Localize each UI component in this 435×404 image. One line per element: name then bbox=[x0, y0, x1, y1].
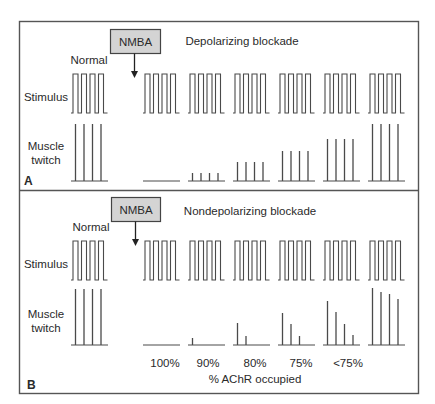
panel-a: NMBA Depolarizing blockade Normal Stimul… bbox=[24, 30, 405, 189]
occupancy-label: 80% bbox=[243, 357, 266, 369]
stimulus-train bbox=[71, 74, 108, 113]
panel-letter-b: B bbox=[27, 378, 36, 392]
stimulus-train bbox=[143, 74, 180, 113]
occupancy-label: 90% bbox=[196, 357, 219, 369]
nmba-label-a: NMBA bbox=[119, 36, 153, 48]
stimulus-train bbox=[188, 241, 225, 280]
stimulus-train bbox=[323, 241, 360, 280]
stimulus-label-b: Stimulus bbox=[24, 258, 68, 270]
stimulus-train bbox=[323, 74, 360, 113]
stimulus-train bbox=[233, 241, 270, 280]
stimulus-label-a: Stimulus bbox=[24, 91, 68, 103]
panel-b: NMBA Nondepolarizing blockade Normal Sti… bbox=[24, 198, 405, 393]
stimulus-train bbox=[368, 241, 405, 280]
stimulus-trains-b bbox=[71, 241, 405, 280]
twitch-label-a-line2: twitch bbox=[31, 154, 60, 166]
twitch-responses-b bbox=[71, 288, 405, 345]
twitch-label-b-line2: twitch bbox=[31, 322, 60, 334]
stimulus-train bbox=[278, 241, 315, 280]
occupancy-label: 100% bbox=[150, 357, 179, 369]
panel-b-title: Nondepolarizing blockade bbox=[184, 205, 316, 217]
stimulus-train bbox=[278, 74, 315, 113]
panel-a-title: Depolarizing blockade bbox=[185, 35, 298, 47]
stimulus-trains-a bbox=[71, 74, 405, 113]
normal-label-b: Normal bbox=[72, 221, 109, 233]
nmba-label-b: NMBA bbox=[119, 204, 153, 216]
stimulus-train bbox=[368, 74, 405, 113]
nmba-blockade-diagram: NMBA Depolarizing blockade Normal Stimul… bbox=[0, 0, 435, 404]
twitch-label-b-line1: Muscle bbox=[28, 308, 64, 320]
occupancy-axis-label: % AChR occupied bbox=[209, 373, 302, 385]
stimulus-train bbox=[143, 241, 180, 280]
stimulus-train bbox=[233, 74, 270, 113]
twitch-responses-a bbox=[71, 124, 405, 181]
stimulus-train bbox=[71, 241, 108, 280]
occupancy-label: 75% bbox=[289, 357, 312, 369]
stimulus-train bbox=[188, 74, 225, 113]
normal-label-a: Normal bbox=[70, 54, 107, 66]
arrow-down-icon bbox=[131, 71, 138, 78]
twitch-label-a-line1: Muscle bbox=[28, 140, 64, 152]
occupancy-label: <75% bbox=[333, 357, 363, 369]
panel-letter-a: A bbox=[24, 174, 33, 188]
arrow-down-icon bbox=[132, 239, 139, 246]
